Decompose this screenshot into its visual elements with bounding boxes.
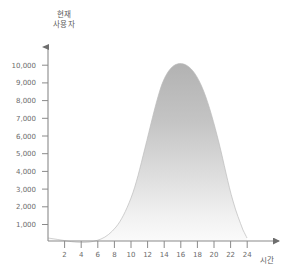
x-tick-label: 16 xyxy=(172,251,190,259)
x-axis-title: 시간 xyxy=(260,256,274,266)
y-tick-label: 7,000 xyxy=(0,115,36,123)
y-tick-label: 1,000 xyxy=(0,221,36,229)
x-tick-label: 20 xyxy=(205,251,223,259)
x-tick-label: 24 xyxy=(238,251,256,259)
y-tick-label: 4,000 xyxy=(0,168,36,176)
x-tick-label: 2 xyxy=(56,251,74,259)
y-axis-title-line-1: 현재 xyxy=(36,10,92,20)
y-tick-label: 3,000 xyxy=(0,186,36,194)
y-axis-title-line-2: 사용자 xyxy=(36,20,92,30)
y-axis-ticks xyxy=(42,65,48,224)
x-tick-label: 6 xyxy=(89,251,107,259)
chart-plot-area xyxy=(0,0,294,279)
y-tick-label: 5,000 xyxy=(0,150,36,158)
area-series-current-users xyxy=(48,64,247,243)
y-tick-label: 9,000 xyxy=(0,79,36,87)
x-tick-label: 8 xyxy=(105,251,123,259)
x-tick-label: 10 xyxy=(122,251,140,259)
x-tick-label: 14 xyxy=(155,251,173,259)
x-tick-label: 22 xyxy=(222,251,240,259)
y-tick-label: 6,000 xyxy=(0,133,36,141)
x-tick-label: 12 xyxy=(139,251,157,259)
y-axis-title: 현재 사용자 xyxy=(36,10,92,30)
x-axis-ticks xyxy=(65,241,248,248)
x-tick-label: 4 xyxy=(72,251,90,259)
x-tick-label: 18 xyxy=(188,251,206,259)
area-fill-path xyxy=(48,64,247,243)
concurrent-users-area-chart: 현재 사용자 시간 1,000 2,000 3,000 4,000 5,000 … xyxy=(0,0,294,279)
y-tick-label: 8,000 xyxy=(0,97,36,105)
y-tick-label: 10,000 xyxy=(0,62,36,70)
y-tick-label: 2,000 xyxy=(0,203,36,211)
